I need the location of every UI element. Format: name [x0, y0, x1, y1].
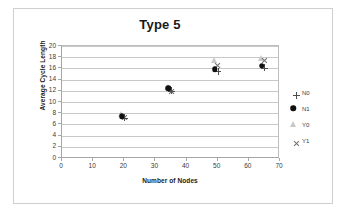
y-tick-mark — [58, 79, 61, 80]
x-axis-line — [61, 157, 279, 158]
y-tick-mark — [58, 90, 61, 91]
x-axis-title: Number of Nodes — [61, 177, 279, 184]
y-tick-label: 0 — [34, 154, 56, 161]
x-tick-mark — [186, 158, 187, 161]
gridline-y — [62, 113, 278, 114]
legend-item-n0[interactable]: N0 — [292, 88, 326, 104]
y-tick-label: 8 — [34, 109, 56, 116]
x-tick-mark — [92, 158, 93, 161]
y-tick-label: 14 — [34, 75, 56, 82]
legend-item-y1[interactable]: Y1 — [292, 136, 326, 152]
data-point-n1 — [259, 63, 265, 69]
x-tick-label: 30 — [143, 162, 165, 169]
y-tick-label: 6 — [34, 120, 56, 127]
y-tick-mark — [58, 56, 61, 57]
legend-label: N0 — [302, 90, 310, 96]
y-tick-label: 16 — [34, 64, 56, 71]
x-tick-label: 40 — [175, 162, 197, 169]
x-tick-label: 20 — [112, 162, 134, 169]
y-tick-mark — [58, 146, 61, 147]
x-tick-mark — [123, 158, 124, 161]
x-tick-mark — [217, 158, 218, 161]
y-tick-mark — [58, 123, 61, 124]
x-tick-label: 70 — [268, 162, 290, 169]
gridline-y — [62, 46, 278, 47]
gridline-y — [62, 147, 278, 148]
y-tick-mark — [58, 135, 61, 136]
y-tick-mark — [58, 45, 61, 46]
y-tick-label: 20 — [34, 42, 56, 49]
x-tick-mark — [61, 158, 62, 161]
y-tick-label: 10 — [34, 98, 56, 105]
y-tick-label: 2 — [34, 142, 56, 149]
x-tick-label: 0 — [50, 162, 72, 169]
circle-marker-icon — [291, 106, 297, 112]
x-tick-mark — [154, 158, 155, 161]
triangle-marker-icon — [290, 121, 296, 127]
x-tick-label: 60 — [237, 162, 259, 169]
x-tick-mark — [248, 158, 249, 161]
data-point-n1 — [166, 85, 172, 91]
legend-label: Y0 — [302, 122, 309, 128]
gridline-y — [62, 136, 278, 137]
data-point-n1 — [119, 113, 125, 119]
gridline-y — [62, 57, 278, 58]
y-tick-mark — [58, 101, 61, 102]
legend-item-n1[interactable]: N1 — [292, 104, 326, 120]
chart-figure: Type 5 Average Cycle Length Number of No… — [0, 0, 347, 214]
chart-legend: N0N1Y0Y1 — [292, 88, 326, 152]
y-tick-label: 4 — [34, 131, 56, 138]
x-tick-label: 10 — [81, 162, 103, 169]
y-tick-label: 18 — [34, 53, 56, 60]
legend-label: N1 — [302, 106, 310, 112]
gridline-y — [62, 102, 278, 103]
y-tick-label: 12 — [34, 86, 56, 93]
gridline-y — [62, 80, 278, 81]
data-point-n1 — [212, 66, 218, 72]
legend-label: Y1 — [302, 138, 309, 144]
y-tick-mark — [58, 112, 61, 113]
x-tick-mark — [279, 158, 280, 161]
y-tick-mark — [58, 67, 61, 68]
gridline-y — [62, 124, 278, 125]
plot-area — [61, 45, 279, 157]
gridline-y — [62, 68, 278, 69]
x-tick-label: 50 — [206, 162, 228, 169]
legend-item-y0[interactable]: Y0 — [292, 120, 326, 136]
chart-title: Type 5 — [60, 17, 260, 32]
